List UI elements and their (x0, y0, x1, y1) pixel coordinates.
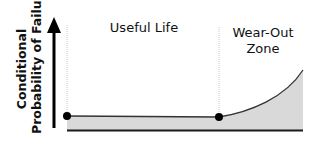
probability-area-fill (67, 70, 303, 130)
wear-out-label-line1: Wear-Out (222, 25, 304, 41)
start-of-wear-out-marker (215, 113, 223, 121)
useful-life-label-text: Useful Life (110, 20, 178, 35)
y-axis-label: Conditional Probability of Failure (14, 4, 48, 134)
failure-pattern-diagram: Conditional Probability of Failure Usefu… (0, 0, 319, 149)
arrow-up-icon (47, 17, 61, 33)
y-axis-label-line1: Conditional (14, 4, 29, 134)
useful-life-label: Useful Life (104, 20, 184, 36)
start-of-life-marker (63, 112, 71, 120)
y-axis-label-line2: Probability of Failure (29, 4, 44, 134)
wear-out-zone-label: Wear-Out Zone (222, 25, 304, 57)
wear-out-label-line2: Zone (222, 41, 304, 57)
